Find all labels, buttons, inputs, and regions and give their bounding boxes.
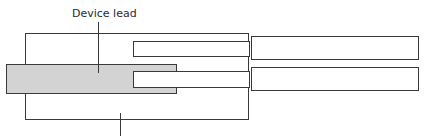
lower-extension <box>252 68 419 91</box>
upper-extension <box>252 37 419 60</box>
upper-channel <box>134 42 250 57</box>
connector-diagram: Device lead <box>0 0 425 139</box>
lower-channel <box>134 72 250 88</box>
device-lead-label: Device lead <box>72 7 137 20</box>
